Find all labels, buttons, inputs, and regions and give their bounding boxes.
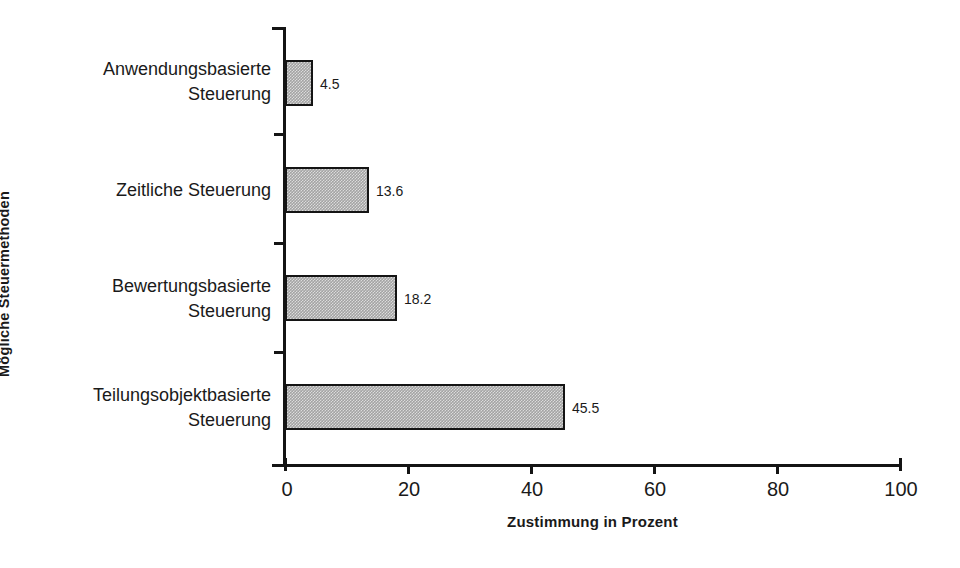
y-axis-tick-3 bbox=[274, 351, 285, 354]
x-axis-tick-0 bbox=[284, 458, 287, 471]
bar-value-label-teilungsobjektbasierte-steuerung: 45.5 bbox=[572, 401, 599, 415]
x-axis-title: Zustimmung in Prozent bbox=[285, 513, 900, 530]
x-tick-label-20: 20 bbox=[398, 477, 420, 501]
x-axis-tick-20 bbox=[407, 464, 410, 474]
bar-value-label-anwendungsbasierte-steuerung: 4.5 bbox=[320, 77, 339, 91]
category-label-teilungsobjektbasierte-steuerung: Teilungsobjektbasierte Steuerung bbox=[0, 383, 283, 433]
bar-teilungsobjektbasierte-steuerung bbox=[285, 384, 565, 430]
x-axis-tick-40 bbox=[530, 464, 533, 474]
y-axis-tick-top bbox=[272, 27, 285, 30]
x-axis-tick-80 bbox=[776, 464, 779, 474]
x-axis-tick-60 bbox=[653, 464, 656, 474]
x-tick-label-60: 60 bbox=[644, 477, 666, 501]
x-axis-line bbox=[283, 464, 902, 467]
category-label-bewertungsbasierte-steuerung: Bewertungsbasierte Steuerung bbox=[0, 274, 283, 324]
bar-bewertungsbasierte-steuerung bbox=[285, 275, 397, 321]
category-label-anwendungsbasierte-steuerung: Anwendungsbasierte Steuerung bbox=[0, 57, 283, 107]
x-tick-label-40: 40 bbox=[521, 477, 543, 501]
bar-anwendungsbasierte-steuerung bbox=[285, 60, 313, 106]
y-axis-tick-1 bbox=[274, 133, 285, 136]
bar-chart: Mögliche Steuermethoden Anwendungsbasier… bbox=[0, 0, 960, 568]
x-tick-label-0: 0 bbox=[281, 477, 292, 501]
y-axis-tick-2 bbox=[274, 242, 285, 245]
x-tick-label-100: 100 bbox=[884, 477, 917, 501]
category-label-zeitliche-steuerung: Zeitliche Steuerung bbox=[0, 178, 283, 203]
bar-value-label-zeitliche-steuerung: 13.6 bbox=[376, 184, 403, 198]
x-axis-tick-100 bbox=[899, 458, 902, 471]
bar-zeitliche-steuerung bbox=[285, 167, 369, 213]
x-tick-label-80: 80 bbox=[767, 477, 789, 501]
bar-value-label-bewertungsbasierte-steuerung: 18.2 bbox=[404, 292, 431, 306]
